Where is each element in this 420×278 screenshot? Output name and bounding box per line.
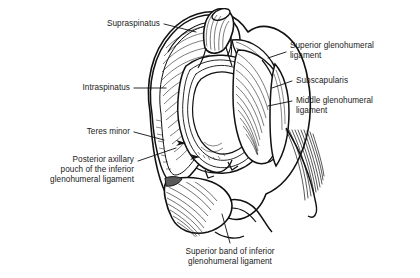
label-posterior-axillary-pouch: Posterior axillary pouch of the inferior… <box>26 155 134 186</box>
label-middle-glenohumeral-ligament: Middle glenohumeral ligament <box>296 96 416 116</box>
label-intraspinatus: Intraspinatus <box>62 83 130 93</box>
label-supraspinatus: Supraspinatus <box>88 19 160 29</box>
label-subscapularis: Subscapularis <box>296 76 416 86</box>
figure-canvas: SupraspinatusIntraspinatusTeres minorPos… <box>0 0 420 278</box>
label-superior-band-inferior-glenohumeral-ligament: Superior band of inferior glenohumeral l… <box>163 247 297 267</box>
label-teres-minor: Teres minor <box>60 127 130 137</box>
label-superior-glenohumeral-ligament: Superior glenohumeral ligament <box>290 41 414 61</box>
